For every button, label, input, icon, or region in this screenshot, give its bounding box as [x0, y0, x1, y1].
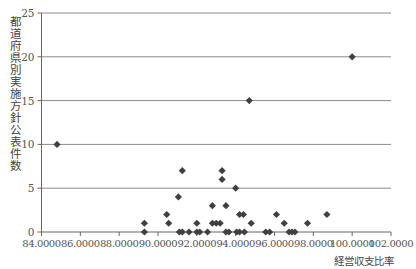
x-tick-label: 84.0000 [22, 238, 61, 249]
x-tick-label: 92.0000 [178, 238, 217, 249]
data-point-diamond [232, 185, 239, 192]
y-tick-label: 20 [21, 51, 34, 63]
data-point-diamond [165, 220, 172, 227]
data-point-diamond [218, 167, 225, 174]
data-point-diamond [209, 202, 216, 209]
data-point-diamond [141, 228, 148, 235]
data-point-diamond [193, 220, 200, 227]
data-point-diamond [281, 220, 288, 227]
y-tick-label: 15 [21, 95, 34, 107]
data-point-diamond [222, 202, 229, 209]
y-tick-label: 10 [21, 138, 34, 150]
scatter-chart: 051015202584.000086.000088.000090.000092… [0, 0, 416, 269]
data-point-diamond [217, 220, 224, 227]
data-point-diamond [273, 211, 280, 218]
data-point-diamond [179, 167, 186, 174]
x-tick-label: 88.0000 [100, 238, 139, 249]
y-axis-label: 都道府県別実施方針公表件数 [7, 16, 21, 172]
data-point-diamond [266, 228, 273, 235]
data-point-diamond [204, 228, 211, 235]
x-axis-label: 経営収支比率 [334, 253, 394, 268]
data-point-diamond [349, 53, 356, 60]
x-tick-label: 86.0000 [61, 238, 100, 249]
x-tick-label: 90.0000 [139, 238, 178, 249]
data-point-diamond [163, 211, 170, 218]
y-tick-label: 0 [28, 226, 35, 238]
x-tick-label: 102.0000 [369, 238, 414, 249]
data-point-diamond [304, 220, 311, 227]
data-point-diamond [246, 97, 253, 104]
y-tick-label: 5 [28, 182, 35, 194]
x-tick-label: 94.0000 [216, 238, 255, 249]
data-point-diamond [185, 228, 192, 235]
data-point-diamond [218, 176, 225, 183]
data-point-diamond [241, 228, 248, 235]
data-point-diamond [141, 220, 148, 227]
x-tick-label: 96.0000 [255, 238, 294, 249]
x-tick-label: 98.0000 [294, 238, 333, 249]
data-point-diamond [240, 211, 247, 218]
data-point-diamond [175, 193, 182, 200]
y-tick-label: 25 [21, 7, 34, 19]
data-point-diamond [323, 211, 330, 218]
data-point-diamond [248, 220, 255, 227]
data-point-diamond [53, 141, 60, 148]
